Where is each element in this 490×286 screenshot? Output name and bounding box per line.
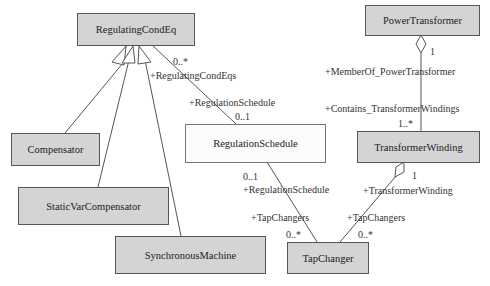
rs-top-multiplicity: 0..1 (235, 112, 250, 122)
class-name: RegulatingCondEq (96, 24, 177, 35)
class-name: Compensator (28, 144, 84, 155)
rs-bottom-role: +RegulationSchedule (243, 185, 329, 195)
class-staticvarcompensator[interactable]: StaticVarCompensator (18, 187, 169, 225)
tc-left-multiplicity: 0..* (286, 230, 301, 240)
pt-multiplicity: 1 (430, 47, 435, 57)
tc-right-multiplicity: 0..* (358, 230, 373, 240)
rce-role: +RegulatingCondEqs (150, 71, 236, 81)
class-name: SynchronousMachine (145, 250, 237, 261)
tw-bottom-role: +TransformerWinding (363, 186, 453, 196)
tw-top-role: +Contains_TransformerWindings (325, 104, 459, 114)
class-regulatingcondeq[interactable]: RegulatingCondEq (77, 13, 195, 46)
class-regulationschedule[interactable]: RegulationSchedule (185, 124, 326, 163)
class-name: PowerTransformer (383, 15, 462, 26)
class-tapchanger[interactable]: TapChanger (287, 242, 369, 274)
rs-top-role: +RegulationSchedule (189, 98, 275, 108)
pt-role: +MemberOf_PowerTransformer (325, 67, 455, 77)
class-name: StaticVarCompensator (46, 201, 140, 212)
class-transformerwinding[interactable]: TransformerWinding (357, 131, 480, 163)
class-compensator[interactable]: Compensator (11, 133, 100, 166)
tw-bottom-multiplicity: 1 (412, 171, 417, 181)
aggregation-diamond-powertransformer (416, 35, 426, 53)
class-powertransformer[interactable]: PowerTransformer (365, 5, 480, 36)
class-name: TransformerWinding (374, 142, 462, 153)
rce-multiplicity: 0..* (173, 57, 188, 67)
class-name: TapChanger (302, 253, 353, 264)
generalization-arrow-syncmachine (138, 46, 151, 64)
rs-bottom-multiplicity: 0..1 (243, 172, 258, 182)
class-synchronousmachine[interactable]: SynchronousMachine (115, 236, 266, 274)
tc-right-role: +TapChangers (347, 213, 405, 223)
tc-left-role: +TapChangers (251, 213, 309, 223)
class-name: RegulationSchedule (213, 138, 298, 149)
tw-top-multiplicity: 1..* (398, 119, 413, 129)
aggregation-diamond-transformerwinding (395, 162, 404, 177)
